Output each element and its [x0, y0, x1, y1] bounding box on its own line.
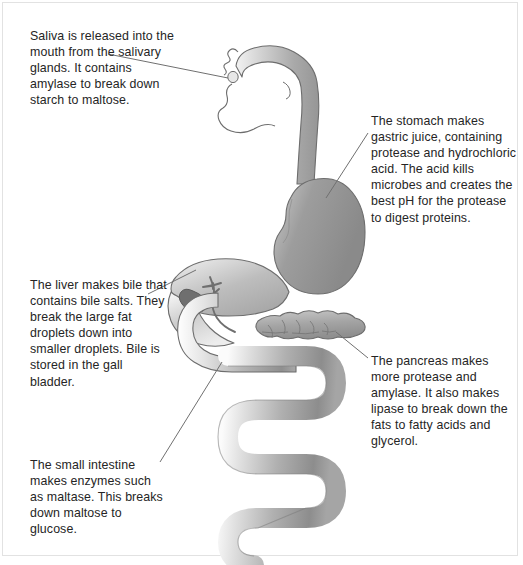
salivary-gland-node: [228, 71, 238, 82]
annotation-pancreas: The pancreas makes more protease and amy…: [371, 353, 517, 450]
digestive-system-figure: Saliva is released into the mouth from t…: [0, 0, 523, 565]
jaw-profile-outline: [218, 84, 275, 133]
annotation-liver: The liver makes bile that contains bile …: [30, 277, 170, 390]
palate-notch-outline: [283, 82, 290, 99]
oesophagus-group: [236, 46, 319, 184]
small-intestine-group: [218, 356, 336, 565]
oesophagus-tube: [236, 46, 319, 184]
nose-profile-outline: [224, 49, 238, 75]
pancreas-group: [256, 311, 365, 339]
annotation-salivary-glands: Saliva is released into the mouth from t…: [30, 28, 182, 108]
annotation-small-intestine: The small intestine makes enzymes such a…: [30, 457, 166, 537]
annotation-stomach: The stomach makes gastric juice, contain…: [371, 113, 517, 226]
